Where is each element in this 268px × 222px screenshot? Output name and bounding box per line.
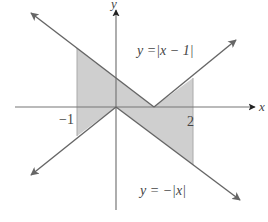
curve-lower-label: y = −|x|: [138, 183, 186, 198]
x-axis-label: x: [258, 99, 265, 114]
y-axis-label: y: [109, 0, 117, 11]
tick-label-2: 2: [187, 114, 194, 129]
curve-upper-label: y =|x − 1|: [135, 43, 194, 58]
tick-label-neg1: −1: [59, 112, 74, 127]
graph: y x −1 2 y =|x − 1| y = −|x|: [0, 0, 268, 222]
